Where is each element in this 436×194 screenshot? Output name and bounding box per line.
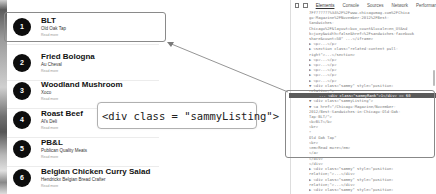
tab-elements[interactable]: Elements [316,3,335,8]
read-more-link[interactable]: Read more [41,183,150,189]
item-title[interactable]: Fried Bologna [41,52,95,62]
devtools-highlight-outline [285,90,435,158]
device-toggle-icon[interactable] [303,3,307,8]
list-item[interactable]: 6 Belgian Chicken Curry Salad Hendrickx … [7,160,159,194]
item-title[interactable]: PB&L [41,138,87,148]
rank-badge: 6 [13,169,31,187]
tab-performance[interactable]: Performar [416,3,436,8]
rank-badge: 4 [13,111,31,129]
tab-console[interactable]: Console [342,3,359,8]
read-more-link[interactable]: Read more [41,154,87,160]
read-more-link[interactable]: Read more [41,96,123,102]
dom-line[interactable]: ▶ <div class="sammy" style="position: [309,187,435,192]
inspect-icon[interactable] [295,3,299,8]
rank-badge: 2 [13,54,31,72]
rank-badge: 5 [13,140,31,158]
code-callout: <div class = "sammyListing"> [97,102,257,129]
item-title[interactable]: Roast Beef [41,109,83,119]
devtools-toolbar: Elements Console Sources Network Perform… [291,0,436,10]
item-title[interactable]: Woodland Mushroom [41,80,123,90]
read-more-link[interactable]: Read more [41,125,83,131]
highlight-outline [4,12,166,42]
devtools-scrollbar[interactable] [433,70,435,86]
tab-sources[interactable]: Sources [367,3,384,8]
tab-network[interactable]: Network [391,3,408,8]
rank-badge: 3 [13,82,31,100]
item-title[interactable]: Belgian Chicken Curry Salad [41,167,150,177]
